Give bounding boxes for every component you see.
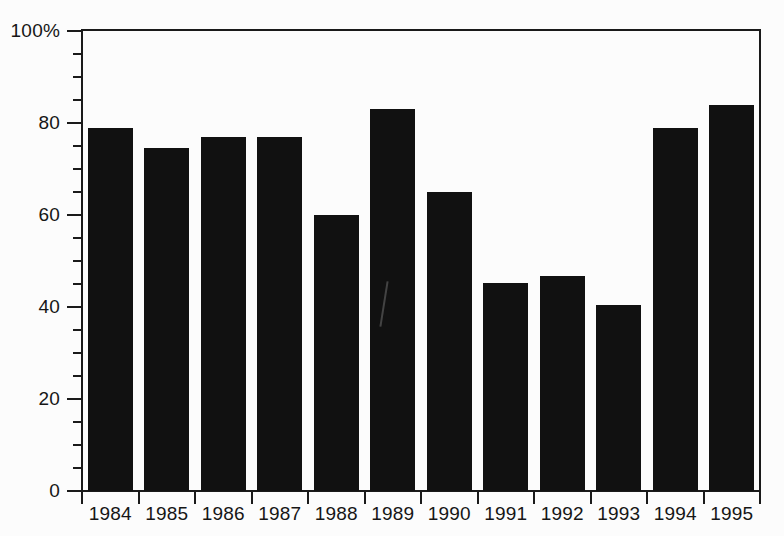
x-axis-tick-label: 1984 (89, 503, 132, 525)
y-axis-tick-label: 0 (49, 480, 60, 502)
bar (483, 283, 528, 491)
x-axis-tick-label: 1992 (541, 503, 584, 525)
bar (88, 128, 133, 491)
bar (540, 276, 585, 491)
bar (653, 128, 698, 491)
y-axis-tick-label: 60 (38, 204, 60, 226)
x-axis-tick-label: 1991 (484, 503, 527, 525)
x-tick (646, 492, 648, 504)
x-tick (420, 492, 422, 504)
bar (709, 105, 754, 491)
y-axis-tick-label: 80 (38, 112, 60, 134)
x-tick (81, 492, 83, 504)
y-axis-tick-label: 40 (38, 296, 60, 318)
x-tick (590, 492, 592, 504)
bar (370, 109, 415, 491)
y-axis-tick-label: 20 (38, 388, 60, 410)
x-axis-tick-label: 1994 (654, 503, 697, 525)
bar (257, 137, 302, 491)
x-axis-tick-label: 1989 (371, 503, 414, 525)
x-tick (138, 492, 140, 504)
y-axis-labels: 020406080100% (0, 0, 82, 536)
x-tick (364, 492, 366, 504)
plot-area (82, 31, 760, 491)
x-tick (307, 492, 309, 504)
x-axis-tick-label: 1985 (145, 503, 188, 525)
x-axis-tick-label: 1987 (258, 503, 301, 525)
x-axis-tick-label: 1988 (315, 503, 358, 525)
bar (144, 148, 189, 491)
x-tick (194, 492, 196, 504)
bar (596, 305, 641, 491)
bar (201, 137, 246, 491)
x-axis-tick-label: 1990 (428, 503, 471, 525)
y-axis-tick-label: 100% (11, 20, 60, 42)
bar-chart: 020406080100% 19841985198619871988198919… (0, 0, 784, 536)
x-axis-tick-label: 1995 (710, 503, 753, 525)
x-tick (703, 492, 705, 504)
x-axis-tick-label: 1993 (597, 503, 640, 525)
x-tick (251, 492, 253, 504)
bar (314, 215, 359, 491)
bar (427, 192, 472, 491)
x-axis-tick-label: 1986 (202, 503, 245, 525)
x-tick (533, 492, 535, 504)
x-tick (759, 492, 761, 504)
x-tick (477, 492, 479, 504)
